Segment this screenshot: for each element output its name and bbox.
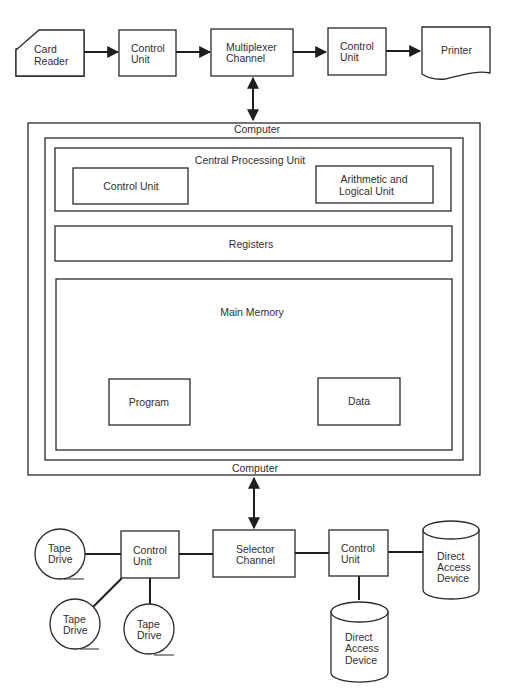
direct-access-device-2: Direct Access Device bbox=[331, 602, 388, 682]
svg-text:Control Unit: Control Unit bbox=[103, 180, 159, 192]
main-memory-title: Main Memory bbox=[220, 306, 284, 318]
card-reader: Card Reader bbox=[16, 30, 84, 76]
svg-text:Logical Unit: Logical Unit bbox=[339, 185, 394, 197]
control-unit-bottom-left: Control Unit bbox=[121, 531, 179, 578]
svg-text:Unit: Unit bbox=[341, 553, 360, 565]
card-reader-label-1: Card bbox=[34, 43, 57, 55]
computer-label-bottom: Computer bbox=[232, 462, 279, 474]
main-memory: Main Memory Program Data bbox=[56, 279, 452, 450]
svg-text:Program: Program bbox=[129, 396, 170, 408]
computer-system-diagram: Card Reader Control Unit Multiplexer Cha… bbox=[0, 0, 514, 696]
svg-text:Access: Access bbox=[345, 642, 379, 654]
control-unit-bottom-right: Control Unit bbox=[329, 530, 388, 576]
direct-access-device-1: Direct Access Device bbox=[423, 521, 479, 599]
svg-text:Arithmetic and: Arithmetic and bbox=[340, 173, 407, 185]
svg-text:Drive: Drive bbox=[48, 553, 73, 565]
svg-text:Unit: Unit bbox=[131, 53, 150, 65]
tape-drive-1: Tape Drive bbox=[35, 529, 85, 579]
line-control-tape2 bbox=[93, 578, 122, 607]
svg-text:Drive: Drive bbox=[137, 629, 162, 641]
svg-text:Channel: Channel bbox=[236, 554, 275, 566]
printer: Printer bbox=[422, 27, 490, 79]
registers: Registers bbox=[55, 226, 452, 261]
control-unit-top-left: Control Unit bbox=[119, 30, 176, 76]
multiplexer-channel: Multiplexer Channel bbox=[211, 29, 293, 76]
svg-text:Unit: Unit bbox=[133, 555, 152, 567]
svg-text:Device: Device bbox=[437, 572, 469, 584]
tape-drive-2: Tape Drive bbox=[50, 599, 100, 649]
central-processing-unit: Central Processing Unit Control Unit Ari… bbox=[55, 148, 451, 211]
svg-text:Channel: Channel bbox=[226, 52, 265, 64]
computer-label-top: Computer bbox=[234, 123, 281, 135]
svg-text:Registers: Registers bbox=[229, 238, 273, 250]
computer: Computer Computer Central Processing Uni… bbox=[28, 123, 480, 475]
svg-text:Unit: Unit bbox=[340, 51, 359, 63]
svg-text:Printer: Printer bbox=[441, 44, 472, 56]
selector-channel: Selector Channel bbox=[213, 530, 295, 577]
control-unit-top-right: Control Unit bbox=[328, 28, 386, 75]
svg-text:Device: Device bbox=[345, 654, 377, 666]
tape-drive-3: Tape Drive bbox=[124, 604, 174, 655]
card-reader-label-2: Reader bbox=[34, 55, 69, 67]
svg-text:Data: Data bbox=[348, 395, 370, 407]
cpu-title: Central Processing Unit bbox=[195, 154, 305, 166]
svg-text:Drive: Drive bbox=[63, 624, 88, 636]
